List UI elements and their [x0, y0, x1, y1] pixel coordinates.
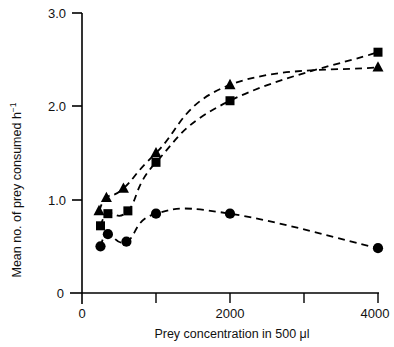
y-axis-tick-labels: 3.0 2.0 1.0 0 — [48, 6, 66, 301]
data-point-square-5 — [374, 48, 383, 57]
data-point-square-0 — [96, 221, 105, 230]
x-tick-label-0: 0 — [78, 306, 85, 321]
series-line-circle — [101, 208, 379, 248]
chart-container: 3.0 2.0 1.0 0 0 2000 4000 Prey concentra… — [0, 0, 394, 347]
x-tick-label-4000: 4000 — [361, 306, 390, 321]
x-axis-ticks — [82, 293, 378, 304]
y-axis-title: Mean no. of prey consumed h−1 — [8, 102, 24, 277]
prey-consumption-scatter-chart: 3.0 2.0 1.0 0 0 2000 4000 Prey concentra… — [0, 0, 394, 347]
data-series-layer — [94, 48, 384, 254]
x-tick-label-2000: 2000 — [216, 306, 245, 321]
data-point-square-1 — [103, 209, 112, 218]
data-point-square-2 — [123, 206, 132, 215]
data-point-triangle-0 — [94, 205, 105, 215]
data-point-circle-5 — [373, 243, 383, 253]
data-point-triangle-5 — [372, 61, 383, 71]
x-axis-title: Prey concentration in 500 μl — [154, 327, 309, 341]
series-line-square — [101, 52, 379, 226]
data-point-circle-2 — [121, 237, 131, 247]
y-axis-title-superscript: −1 — [8, 102, 18, 112]
axis-lines — [82, 13, 379, 293]
data-point-square-3 — [152, 158, 161, 167]
data-point-triangle-4 — [224, 79, 235, 89]
series-circle — [95, 208, 383, 253]
data-point-circle-0 — [95, 241, 105, 251]
y-axis-title-group: Mean no. of prey consumed h−1 — [8, 102, 24, 277]
y-tick-label-0: 0 — [57, 286, 64, 301]
data-point-circle-1 — [103, 229, 113, 239]
series-triangle — [94, 61, 384, 215]
y-axis-title-text: Mean no. of prey consumed h — [10, 112, 24, 277]
data-point-square-4 — [226, 96, 235, 105]
y-tick-label-1: 1.0 — [48, 193, 66, 208]
y-tick-label-3: 3.0 — [48, 6, 66, 21]
data-point-circle-4 — [225, 209, 235, 219]
series-square — [96, 48, 383, 231]
data-point-circle-3 — [151, 209, 161, 219]
data-point-triangle-1 — [101, 192, 112, 202]
x-axis-tick-labels: 0 2000 4000 — [78, 306, 389, 321]
y-tick-label-2: 2.0 — [48, 99, 66, 114]
y-axis-ticks — [70, 13, 82, 293]
series-line-triangle — [99, 67, 378, 211]
